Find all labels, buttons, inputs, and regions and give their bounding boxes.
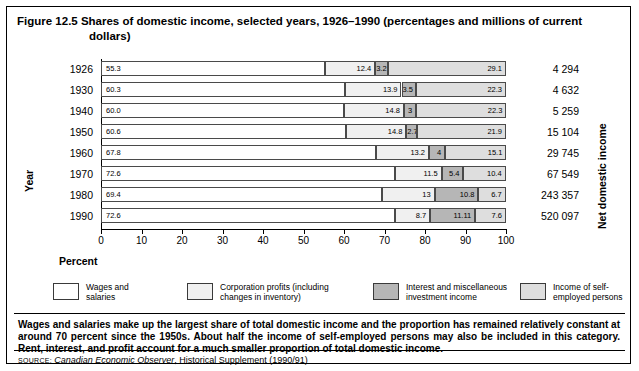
- bar-segment: 14.8: [344, 103, 404, 118]
- bar-segment: 8.7: [395, 208, 430, 223]
- bar-segment: 15.1: [445, 145, 506, 160]
- bar-segment: 11.11: [430, 208, 475, 223]
- bar-segment: 60.6: [101, 124, 346, 139]
- year-label: 1930: [55, 84, 93, 96]
- legend-item: Corporation profits (including changes i…: [187, 282, 370, 302]
- bar-row: 72.611.55.410.4: [101, 166, 506, 181]
- x-tick: [466, 230, 467, 234]
- bar-row: 60.313.93.522.3: [101, 82, 506, 97]
- legend-swatch: [373, 283, 399, 300]
- bar-segment: 3: [404, 103, 416, 118]
- source-label: SOURCE:: [18, 357, 52, 364]
- x-tick: [142, 230, 143, 234]
- bar-segment: 3.5: [402, 82, 416, 97]
- bar-segment: 29.1: [388, 61, 506, 76]
- legend-label: Corporation profits (including changes i…: [220, 282, 370, 302]
- bar-segment: 5.4: [442, 166, 464, 181]
- bar-row: 60.614.82.721.9: [101, 124, 506, 139]
- net-income-value: 520 097: [513, 210, 579, 222]
- x-axis-title: Percent: [59, 255, 98, 267]
- divider-above-note: [14, 313, 625, 314]
- x-tick-label: 0: [86, 235, 116, 246]
- bar-segment: 72.6: [101, 166, 395, 181]
- figure-panel: Figure 12.5 Shares of domestic income, s…: [6, 6, 631, 364]
- legend-swatch: [53, 283, 79, 300]
- figure-title: Figure 12.5 Shares of domestic income, s…: [17, 14, 617, 44]
- year-label: 1970: [55, 168, 93, 180]
- bar-row: 60.014.8322.3: [101, 103, 506, 118]
- x-tick: [506, 230, 507, 234]
- bar-segment: 3.2: [375, 61, 388, 76]
- bar-segment: 10.4: [463, 166, 505, 181]
- bar-segment: 55.3: [101, 61, 325, 76]
- bar-segment: 22.3: [416, 103, 506, 118]
- right-axis-title: Net domestic income: [596, 123, 608, 229]
- bar-segment: 69.4: [101, 187, 382, 202]
- net-income-value: 4 294: [513, 63, 579, 75]
- bar-segment: 67.8: [101, 145, 376, 160]
- x-tick-label: 30: [208, 235, 238, 246]
- bar-segment: 21.9: [417, 124, 506, 139]
- x-tick-label: 90: [451, 235, 481, 246]
- legend-item: Income of self- employed persons: [520, 282, 639, 302]
- net-income-value: 4 632: [513, 84, 579, 96]
- figure-note: Wages and salaries make up the largest s…: [18, 319, 620, 354]
- bar-segment: 60.0: [101, 103, 344, 118]
- net-income-value: 15 104: [513, 126, 579, 138]
- year-label: 1950: [55, 126, 93, 138]
- x-tick: [263, 230, 264, 234]
- bar-segment: 13.2: [376, 145, 429, 160]
- chart-legend: Wages and salariesCorporation profits (i…: [53, 282, 623, 312]
- x-tick: [182, 230, 183, 234]
- stacked-bar-plot: 55.312.43.229.160.313.93.522.360.014.832…: [101, 59, 506, 229]
- net-income-value: 243 357: [513, 189, 579, 201]
- bar-segment: 11.5: [395, 166, 442, 181]
- figure-title-line2: dollars): [17, 29, 617, 44]
- x-tick-label: 70: [370, 235, 400, 246]
- year-label: 1926: [55, 63, 93, 75]
- x-tick-label: 100: [491, 235, 521, 246]
- bar-segment: 60.3: [101, 82, 345, 97]
- year-label: 1980: [55, 189, 93, 201]
- bar-segment: 12.4: [325, 61, 375, 76]
- year-label: 1940: [55, 105, 93, 117]
- legend-label: Wages and salaries: [86, 282, 174, 302]
- y-axis-title: Year: [23, 170, 35, 192]
- net-income-value: 29 745: [513, 147, 579, 159]
- bar-segment: 10.8: [435, 187, 479, 202]
- bar-row: 55.312.43.229.1: [101, 61, 506, 76]
- x-tick: [101, 230, 102, 234]
- bar-segment: 4: [429, 145, 445, 160]
- bar-segment: 2.7: [406, 124, 417, 139]
- bar-segment: 72.6: [101, 208, 395, 223]
- legend-swatch: [187, 283, 213, 300]
- x-tick-label: 80: [410, 235, 440, 246]
- bar-row: 67.813.2415.1: [101, 145, 506, 160]
- year-label: 1960: [55, 147, 93, 159]
- x-tick: [385, 230, 386, 234]
- bar-segment: 14.8: [346, 124, 406, 139]
- legend-item: Wages and salaries: [53, 282, 174, 302]
- x-tick-label: 60: [329, 235, 359, 246]
- bar-segment: 13.9: [345, 82, 401, 97]
- figure-title-line1: Figure 12.5 Shares of domestic income, s…: [17, 15, 582, 27]
- legend-swatch: [520, 283, 546, 300]
- figure-source: SOURCE: Canadian Economic Observer, Hist…: [18, 355, 308, 365]
- x-tick: [425, 230, 426, 234]
- legend-label: Income of self- employed persons: [553, 282, 639, 302]
- x-tick: [344, 230, 345, 234]
- bar-row: 72.68.711.117.6: [101, 208, 506, 223]
- bar-segment: 7.6: [475, 208, 506, 223]
- bar-segment: 13: [382, 187, 435, 202]
- x-tick: [223, 230, 224, 234]
- net-income-value: 67 549: [513, 168, 579, 180]
- source-detail: , Historical Supplement (1990/91): [174, 355, 308, 365]
- year-label: 1990: [55, 210, 93, 222]
- x-tick: [304, 230, 305, 234]
- net-income-value: 5 259: [513, 105, 579, 117]
- bar-row: 69.41310.86.7: [101, 187, 506, 202]
- x-tick-label: 40: [248, 235, 278, 246]
- x-tick-label: 10: [127, 235, 157, 246]
- x-tick-label: 50: [289, 235, 319, 246]
- bar-segment: 6.7: [478, 187, 505, 202]
